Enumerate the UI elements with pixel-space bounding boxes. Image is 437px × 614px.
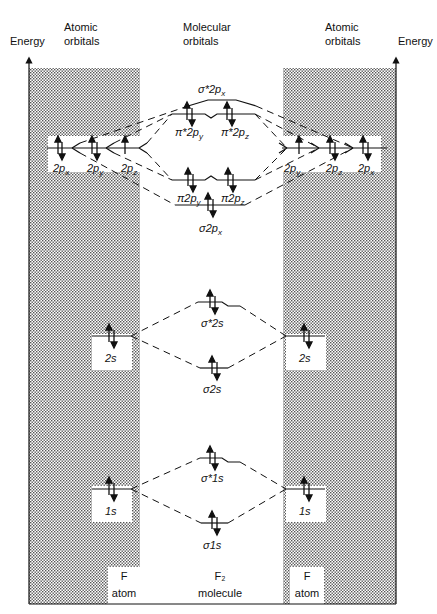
energy-label-left: Energy — [10, 34, 45, 48]
sigma-star-2s-label: σ*2s — [201, 317, 224, 330]
sigma-star-2px-level — [188, 100, 256, 106]
pi-2py-label: π2py — [177, 192, 201, 209]
molecule-footer: F₂ molecule — [180, 570, 260, 600]
left-atom-footer: F atom — [108, 570, 140, 600]
pi-2pz-label: π2pz — [221, 192, 245, 209]
right-1s-label: 1s — [299, 505, 311, 518]
sigma-1s-label: σ1s — [203, 539, 221, 552]
right-2pz-label: 2pz — [326, 162, 342, 179]
pi-star-2py-label: π*2py — [175, 126, 203, 143]
energy-label-right: Energy — [398, 34, 433, 48]
left-2s-label: 2s — [105, 352, 117, 365]
molecular-orbitals-header: Molecular orbitals — [183, 20, 231, 48]
left-2py-label: 2py — [87, 162, 103, 179]
left-1s-label: 1s — [105, 505, 117, 518]
left-2px-label: 2px — [53, 162, 69, 179]
sigma-star-1s-label: σ*1s — [201, 472, 224, 485]
right-2py-label: 2py — [284, 162, 300, 179]
right-2px-label: 2px — [358, 162, 374, 179]
right-atom-footer: F atom — [290, 570, 324, 600]
sigma-2s-label: σ2s — [203, 383, 221, 396]
sigma-2px-label: σ2px — [199, 222, 222, 239]
right-2s-label: 2s — [299, 352, 311, 365]
atomic-orbitals-left-header: Atomic orbitals — [64, 20, 99, 48]
left-2pz-label: 2pz — [121, 162, 137, 179]
sigma-star-2px-label: σ*2px — [198, 83, 225, 100]
atomic-orbitals-right-header: Atomic orbitals — [325, 20, 360, 48]
pi-star-2pz-label: π*2pz — [221, 126, 249, 143]
